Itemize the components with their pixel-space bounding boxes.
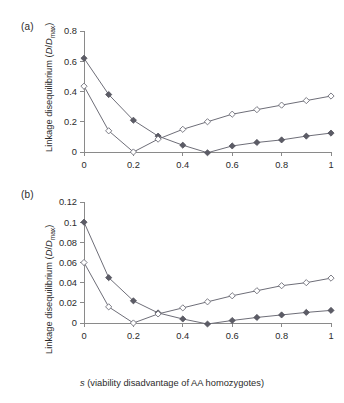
data-point-open-diamond bbox=[303, 97, 309, 103]
x-tick-label: 1 bbox=[328, 331, 333, 341]
y-tick-label: 0.2 bbox=[64, 117, 77, 127]
data-point-filled-diamond bbox=[303, 133, 309, 139]
data-point-filled-diamond bbox=[204, 150, 210, 156]
y-tick-label: 0 bbox=[72, 147, 77, 157]
data-point-open-diamond bbox=[279, 102, 285, 108]
panel-b-x-axis-label: s (viability disadvantage of AA homozygo… bbox=[0, 378, 344, 388]
x-tick-label: 0.8 bbox=[275, 331, 288, 341]
data-point-open-diamond bbox=[81, 83, 87, 89]
figure-linkage-disequilibrium: (a) Linkage disequilibrium (D/Dmax) 00.2… bbox=[0, 0, 344, 403]
y-tick-label: 0.08 bbox=[59, 238, 77, 248]
panel-b-plot: 00.020.040.060.080.10.1200.20.40.60.81 bbox=[0, 182, 344, 372]
data-point-filled-diamond bbox=[81, 219, 87, 225]
y-tick-label: 0.04 bbox=[59, 278, 77, 288]
series-line-filled-diamond-series bbox=[84, 222, 331, 324]
x-tick-label: 0.8 bbox=[275, 160, 288, 170]
panel-b: (b) Linkage disequilibrium (D/Dmax) 00.0… bbox=[0, 182, 344, 403]
data-point-open-diamond bbox=[303, 280, 309, 286]
x-tick-label: 0.2 bbox=[127, 331, 140, 341]
data-point-open-diamond bbox=[81, 259, 87, 265]
series-line-filled-diamond-series bbox=[84, 58, 331, 153]
x-tick-label: 0.2 bbox=[127, 160, 140, 170]
data-point-filled-diamond bbox=[81, 55, 87, 61]
y-tick-label: 0.4 bbox=[64, 87, 77, 97]
x-tick-label: 0 bbox=[81, 331, 86, 341]
data-point-open-diamond bbox=[328, 93, 334, 99]
x-tick-label: 1 bbox=[328, 160, 333, 170]
y-tick-label: 0.06 bbox=[59, 258, 77, 268]
y-tick-label: 0.8 bbox=[64, 26, 77, 36]
x-tick-label: 0.4 bbox=[176, 160, 189, 170]
panel-a: (a) Linkage disequilibrium (D/Dmax) 00.2… bbox=[0, 0, 344, 185]
data-point-open-diamond bbox=[229, 293, 235, 299]
data-point-filled-diamond bbox=[279, 312, 285, 318]
data-point-open-diamond bbox=[328, 275, 334, 281]
data-point-filled-diamond bbox=[254, 139, 260, 145]
data-point-filled-diamond bbox=[180, 142, 186, 148]
data-point-open-diamond bbox=[106, 304, 112, 310]
data-point-filled-diamond bbox=[229, 143, 235, 149]
x-tick-label: 0 bbox=[81, 160, 86, 170]
y-tick-label: 0.1 bbox=[64, 218, 77, 228]
data-point-filled-diamond bbox=[180, 316, 186, 322]
data-point-open-diamond bbox=[180, 305, 186, 311]
y-tick-label: 0.12 bbox=[59, 197, 77, 207]
data-point-filled-diamond bbox=[328, 307, 334, 313]
x-tick-label: 0.6 bbox=[226, 331, 239, 341]
y-tick-label: 0.02 bbox=[59, 298, 77, 308]
data-point-open-diamond bbox=[204, 119, 210, 125]
data-point-open-diamond bbox=[130, 320, 136, 326]
x-tick-label: 0.4 bbox=[176, 331, 189, 341]
data-point-filled-diamond bbox=[254, 314, 260, 320]
data-point-filled-diamond bbox=[303, 309, 309, 315]
y-tick-label: 0 bbox=[72, 318, 77, 328]
data-point-open-diamond bbox=[180, 126, 186, 132]
data-point-open-diamond bbox=[279, 283, 285, 289]
data-point-filled-diamond bbox=[204, 321, 210, 327]
data-point-open-diamond bbox=[254, 288, 260, 294]
x-tick-label: 0.6 bbox=[226, 160, 239, 170]
data-point-open-diamond bbox=[229, 111, 235, 117]
data-point-filled-diamond bbox=[279, 137, 285, 143]
y-tick-label: 0.6 bbox=[64, 57, 77, 67]
data-point-filled-diamond bbox=[328, 130, 334, 136]
data-point-open-diamond bbox=[204, 299, 210, 305]
data-point-open-diamond bbox=[254, 107, 260, 113]
panel-a-plot: 00.20.40.60.800.20.40.60.81 bbox=[0, 0, 344, 185]
